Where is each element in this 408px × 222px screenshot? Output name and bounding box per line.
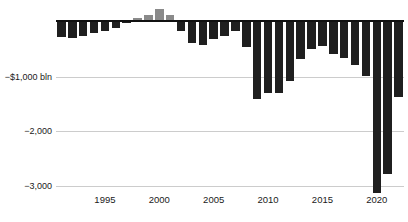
x-axis-label-2020: 2020 [357, 194, 397, 205]
bar-2008 [242, 22, 251, 47]
x-axis-label-2000: 2000 [139, 194, 179, 205]
bar-2016 [329, 22, 338, 54]
bar-2018 [351, 22, 360, 65]
bar-2020 [373, 22, 382, 193]
bar-2014 [307, 22, 316, 49]
bar-1997 [122, 22, 131, 23]
gridline--3000 [56, 186, 404, 187]
bar-2007 [231, 22, 240, 31]
bar-2017 [340, 22, 349, 58]
bar-2015 [318, 22, 327, 46]
zero-axis-line [56, 20, 404, 22]
bar-2010 [264, 22, 273, 93]
bar-2012 [286, 22, 295, 81]
y-axis-label: −2,000 [0, 126, 52, 136]
x-axis-label-2010: 2010 [248, 194, 288, 205]
bar-2006 [220, 22, 229, 36]
bar-2022 [394, 22, 403, 97]
bar-2009 [253, 22, 262, 99]
bar-2011 [275, 22, 284, 93]
y-axis-label: −$1,000 bln [0, 72, 52, 82]
x-axis-label-1995: 1995 [85, 194, 125, 205]
bar-2013 [296, 22, 305, 59]
bar-1995 [101, 22, 110, 31]
bar-1993 [79, 22, 88, 36]
bar-1994 [90, 22, 99, 33]
x-axis-label-2005: 2005 [194, 194, 234, 205]
deficit-bar-chart: −$1,000 bln−2,000−3,000 1995200020052010… [0, 0, 408, 222]
gridline--1000 [56, 77, 404, 78]
y-axis-label: −3,000 [0, 181, 52, 191]
bar-2003 [188, 22, 197, 43]
bar-2005 [209, 22, 218, 39]
bar-2019 [362, 22, 371, 76]
bar-2002 [177, 22, 186, 31]
gridline--2000 [56, 131, 404, 132]
bar-1992 [68, 22, 77, 38]
bar-1991 [57, 22, 66, 37]
bar-2004 [199, 22, 208, 45]
bar-1996 [112, 22, 121, 28]
bar-2021 [383, 22, 392, 174]
x-axis-label-2015: 2015 [302, 194, 342, 205]
